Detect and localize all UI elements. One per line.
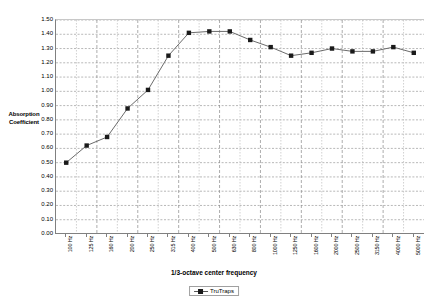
- x-axis-tick-mark: [188, 234, 189, 237]
- data-point-marker: [166, 53, 170, 57]
- data-point-marker: [289, 53, 293, 57]
- x-axis-tick-mark: [270, 234, 271, 237]
- y-axis-tick-label: 1.20: [28, 59, 53, 65]
- y-axis-tick-label: 1.50: [28, 16, 53, 22]
- x-axis-tick-label: 400 Hz: [190, 236, 196, 252]
- y-axis-tick-label: 0.70: [28, 130, 53, 136]
- x-axis-tick-label: 2500 Hz: [354, 236, 360, 255]
- data-point-marker: [412, 51, 416, 55]
- y-axis-tick-label: 0.40: [28, 173, 53, 179]
- x-axis-tick-mark: [229, 234, 230, 237]
- x-axis-tick-mark: [413, 234, 414, 237]
- x-axis-tick-label: 315 Hz: [170, 236, 176, 252]
- y-axis-tick-label: 0.20: [28, 201, 53, 207]
- data-point-marker: [268, 45, 272, 49]
- x-axis-tick-mark: [147, 234, 148, 237]
- data-point-marker: [84, 143, 88, 147]
- y-axis-tick-label: 0.60: [28, 144, 53, 150]
- y-axis-tick-label: 1.10: [28, 73, 53, 79]
- x-axis-tick-mark: [372, 234, 373, 237]
- plot-area: [55, 19, 424, 234]
- data-point-marker: [207, 29, 211, 33]
- x-axis-tick-mark: [167, 234, 168, 237]
- data-point-marker: [187, 31, 191, 35]
- x-axis-tick-label: 1600 Hz: [313, 236, 319, 255]
- x-axis-tick-label: 160 Hz: [108, 236, 114, 252]
- x-axis-tick-labels: 100 Hz125 Hz160 Hz200 Hz250 Hz315 Hz400 …: [55, 234, 423, 270]
- x-axis-tick-mark: [127, 234, 128, 237]
- chart-legend: TruTraps: [189, 286, 239, 296]
- y-axis-tick-label: 0.80: [28, 116, 53, 122]
- x-axis-tick-mark: [106, 234, 107, 237]
- x-axis-tick-label: 1250 Hz: [292, 236, 298, 255]
- x-axis-tick-mark: [290, 234, 291, 237]
- x-axis-tick-mark: [86, 234, 87, 237]
- legend-marker-icon: [198, 289, 203, 294]
- x-axis-tick-label: 800 Hz: [251, 236, 257, 252]
- y-axis-tick-labels: 1.501.401.301.201.101.000.900.800.700.60…: [28, 0, 53, 302]
- x-axis-tick-label: 250 Hz: [149, 236, 155, 252]
- data-point-marker: [64, 160, 68, 164]
- x-axis-tick-label: 100 Hz: [67, 236, 73, 252]
- y-axis-tick-label: 1.40: [28, 30, 53, 36]
- y-axis-tick-label: 0.00: [28, 230, 53, 236]
- legend-line-sample: [194, 291, 208, 292]
- data-point-marker: [330, 46, 334, 50]
- data-point-marker: [228, 29, 232, 33]
- x-axis-tick-mark: [331, 234, 332, 237]
- x-axis-tick-mark: [392, 234, 393, 237]
- data-point-marker: [391, 45, 395, 49]
- data-point-marker: [146, 88, 150, 92]
- x-axis-tick-mark: [351, 234, 352, 237]
- legend-entry-label: TruTraps: [210, 288, 234, 294]
- absorption-coefficient-chart: Absorption Coefficient 1.501.401.301.201…: [0, 0, 428, 302]
- x-axis-tick-label: 630 Hz: [231, 236, 237, 252]
- x-axis-tick-label: 500 Hz: [211, 236, 217, 252]
- x-axis-tick-label: 2000 Hz: [333, 236, 339, 255]
- data-point-marker: [125, 106, 129, 110]
- y-axis-tick-label: 1.00: [28, 87, 53, 93]
- data-point-marker: [309, 51, 313, 55]
- x-axis-title: 1/3-octave center frequency: [0, 269, 428, 276]
- data-point-marker: [248, 38, 252, 42]
- data-point-marker: [371, 49, 375, 53]
- x-axis-tick-label: 125 Hz: [88, 236, 94, 252]
- y-axis-tick-label: 0.10: [28, 216, 53, 222]
- y-axis-tick-label: 0.90: [28, 102, 53, 108]
- x-axis-tick-label: 3150 Hz: [374, 236, 380, 255]
- y-axis-tick-label: 1.30: [28, 45, 53, 51]
- data-point-marker: [350, 49, 354, 53]
- data-point-marker: [105, 135, 109, 139]
- x-axis-tick-mark: [208, 234, 209, 237]
- x-axis-tick-mark: [311, 234, 312, 237]
- y-axis-tick-label: 0.50: [28, 159, 53, 165]
- x-axis-tick-label: 1000 Hz: [272, 236, 278, 255]
- x-axis-tick-label: 5000 Hz: [415, 236, 421, 255]
- plot-svg: [56, 20, 424, 234]
- x-axis-tick-label: 200 Hz: [129, 236, 135, 252]
- x-axis-tick-label: 4000 Hz: [395, 236, 401, 255]
- y-axis-tick-label: 0.30: [28, 187, 53, 193]
